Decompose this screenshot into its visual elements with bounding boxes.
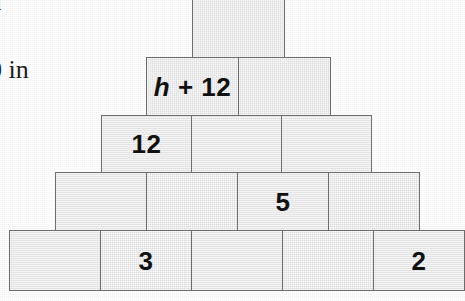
block-r2-c1[interactable]: h + 12: [146, 57, 239, 116]
block-r4-c4[interactable]: [328, 172, 420, 231]
block-label: 3: [139, 248, 154, 274]
block-r5-c2[interactable]: 3: [100, 230, 192, 291]
pyramid-row-1: [192, 0, 285, 58]
block-pyramid: h + 12 12 5: [0, 0, 465, 301]
block-label: 2: [412, 248, 427, 274]
block-r4-c2[interactable]: [146, 172, 238, 231]
pyramid-row-5: 3 2: [9, 230, 465, 291]
block-r5-c1[interactable]: [9, 230, 101, 291]
block-label: 12: [132, 131, 162, 157]
margin-text-units-label: 0 in: [0, 55, 29, 85]
block-r5-c5[interactable]: 2: [373, 230, 465, 291]
pyramid-row-3: 12: [101, 115, 372, 173]
pyramid-row-4: 5: [55, 172, 420, 231]
block-r1-c1[interactable]: [192, 0, 285, 58]
block-label: h + 12: [154, 74, 231, 100]
block-r3-c2[interactable]: [191, 115, 282, 173]
block-r5-c4[interactable]: [282, 230, 374, 291]
block-r4-c1[interactable]: [55, 172, 147, 231]
block-r2-c2[interactable]: [238, 57, 331, 116]
block-r3-c1[interactable]: 12: [101, 115, 192, 173]
block-label: 5: [276, 189, 291, 215]
margin-text-clipped-top: n: [0, 0, 2, 17]
block-r4-c3[interactable]: 5: [237, 172, 329, 231]
block-r3-c3[interactable]: [281, 115, 372, 173]
pyramid-row-2: h + 12: [146, 57, 331, 116]
scanned-page: n 0 in h + 12 12: [0, 0, 465, 301]
block-r5-c3[interactable]: [191, 230, 283, 291]
